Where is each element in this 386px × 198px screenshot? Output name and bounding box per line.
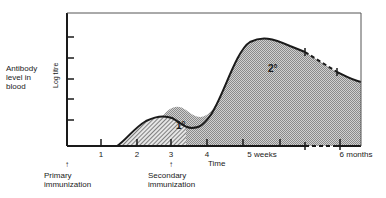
secondary-response-area [162, 39, 361, 146]
x-tick-3: 3 [169, 150, 173, 159]
secondary-arrow-icon: ↑ [169, 161, 173, 169]
x-tick-5-weeks: 5 weeks [247, 150, 276, 159]
primary-arrow-icon: ↑ [65, 161, 69, 169]
x-axis-title: Time [208, 159, 225, 168]
x-tick-6-months: 6 months [340, 150, 373, 159]
antibody-response-chart [0, 0, 386, 198]
y-ticks [67, 37, 74, 120]
secondary-curve-label: 2° [268, 63, 278, 74]
x-tick-1: 1 [99, 150, 103, 159]
y-axis-title: Log titre [52, 63, 59, 88]
primary-curve-label: 1° [176, 120, 186, 131]
secondary-immunization-label: Secondary immunization [148, 171, 195, 189]
y-side-label: Antibody level in blood [6, 64, 50, 91]
x-tick-2: 2 [135, 150, 139, 159]
primary-immunization-label: Primary immunization [44, 171, 91, 189]
x-tick-4: 4 [205, 150, 209, 159]
